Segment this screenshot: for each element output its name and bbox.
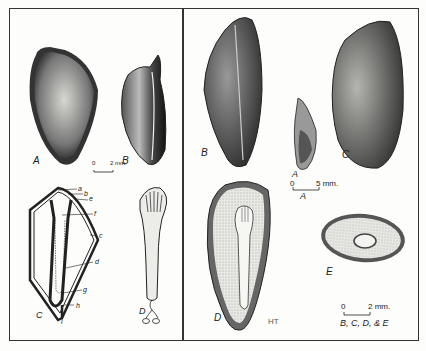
part-label-e: e — [89, 195, 93, 202]
label-left-a: A — [33, 156, 40, 166]
right-scale-a-zero: 0 — [290, 180, 294, 188]
part-label-g: g — [83, 286, 87, 293]
left-seed-b-drawing — [122, 55, 166, 165]
label-right-e: E — [326, 267, 333, 277]
label-right-c: C — [342, 150, 349, 160]
artist-signature: HT — [268, 318, 279, 326]
left-scale-value: 2 mm. — [110, 160, 127, 166]
right-scale-a-caption: A — [300, 192, 306, 201]
left-scale-zero: 0 — [92, 160, 95, 166]
right-seed-b-drawing — [204, 18, 262, 167]
right-scale-bcde-zero: 0 — [341, 303, 345, 311]
part-label-h: h — [76, 302, 80, 309]
left-embryo-d-drawing — [140, 188, 167, 324]
right-section-d-drawing — [207, 181, 270, 330]
label-right-d: D — [214, 313, 221, 323]
right-seed-a-drawing — [294, 98, 316, 169]
part-label-c: c — [99, 232, 103, 239]
left-scale-bar — [94, 170, 113, 172]
right-scale-bcde-value: 2 mm. — [368, 303, 390, 311]
right-seed-c-drawing — [332, 21, 403, 168]
right-cross-section-e-drawing — [319, 210, 407, 265]
part-label-a: a — [78, 185, 82, 192]
label-right-a: A — [292, 170, 298, 179]
right-scale-bcde-caption: B, C, D, & E — [340, 319, 389, 328]
left-seed-a-drawing — [30, 47, 98, 165]
left-section-c-drawing — [30, 188, 98, 320]
right-scale-a-value: 5 mm. — [316, 180, 338, 188]
part-label-d: d — [95, 258, 99, 265]
part-label-f: f — [94, 210, 96, 217]
illustration-drawings — [0, 0, 426, 351]
label-right-b: B — [201, 148, 208, 158]
part-label-i: i — [61, 318, 63, 325]
part-label-b: b — [84, 190, 88, 197]
label-left-d: D — [139, 307, 146, 316]
label-left-c: C — [36, 311, 43, 320]
right-scale-bar-bcde — [344, 312, 370, 315]
